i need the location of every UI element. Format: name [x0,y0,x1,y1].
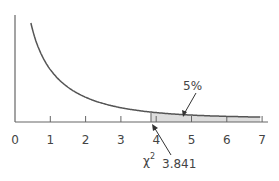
chi-square-chart: 01234567 5% χ2 3.841 [0,0,279,181]
x-tick-label: 3 [117,133,125,147]
x-tick-label: 0 [11,133,19,147]
chi-square-label: χ2 [143,152,155,168]
x-tick-label: 1 [46,133,54,147]
x-tick-label: 7 [258,133,266,147]
x-tick-label: 6 [223,133,231,147]
density-curve [31,23,260,117]
x-tick-label: 2 [82,133,90,147]
critical-value-label: 3.841 [162,157,196,171]
critical-arrowhead-icon [152,124,158,131]
tail-arrow [184,93,196,114]
x-tick-label: 5 [188,133,196,147]
tail-percent-label: 5% [183,79,202,93]
